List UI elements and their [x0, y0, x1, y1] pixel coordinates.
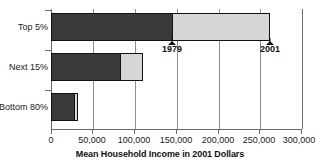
category-label-top5: Top 5%: [18, 22, 48, 32]
y-tick-top5: [45, 10, 51, 11]
y-tick-bottom80: [45, 90, 51, 91]
x-tick-50000: [92, 130, 93, 134]
x-tick-300000: [301, 130, 302, 134]
x-label-150000: 150,000: [160, 135, 193, 146]
x-axis-title: Mean Household Income in 2001 Dollars: [0, 149, 320, 159]
x-label-300000: 300,000: [283, 135, 316, 146]
x-label-0: 0: [48, 135, 53, 146]
y-tick-next15: [45, 50, 51, 51]
x-tick-200000: [218, 130, 219, 134]
bar-1979-bottom80: [52, 94, 75, 120]
annotation-1979-label: 1979: [162, 44, 182, 54]
x-label-100000: 100,000: [118, 135, 151, 146]
x-label-250000: 250,000: [243, 135, 276, 146]
gridline-300000: [302, 9, 303, 129]
bar-2001-top5: [51, 13, 270, 41]
bar-chart: Top 5% Next 15% Bottom 80% 1979 2001 0 5…: [0, 0, 320, 165]
annotation-2001-label: 2001: [260, 44, 280, 54]
x-tick-0: [51, 130, 52, 134]
x-label-50000: 50,000: [78, 135, 106, 146]
x-tick-250000: [259, 130, 260, 134]
x-label-200000: 200,000: [202, 135, 235, 146]
bar-2001-bottom80: [51, 93, 78, 121]
bar-1979-top5: [52, 14, 173, 40]
category-label-bottom80: Bottom 80%: [0, 102, 48, 112]
x-tick-150000: [176, 130, 177, 134]
x-tick-100000: [134, 130, 135, 134]
bar-2001-next15: [51, 53, 143, 81]
category-label-next15: Next 15%: [9, 62, 48, 72]
bar-1979-next15: [52, 54, 121, 80]
